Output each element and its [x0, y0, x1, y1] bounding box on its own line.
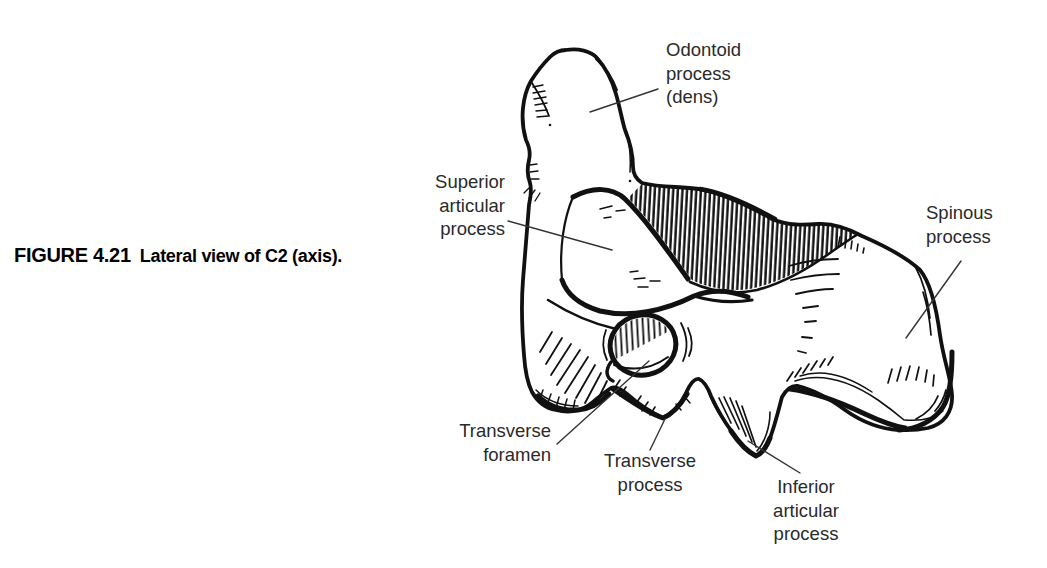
label-odontoid-process: Odontoid process (dens) — [666, 38, 741, 109]
label-transverse-process: Transverse process — [570, 449, 730, 496]
label-transverse-foramen: Transverse foramen — [391, 419, 551, 466]
label-inferior-articular-process: Inferior articular process — [726, 475, 886, 546]
figure-panel: Odontoid process (dens) Superior articul… — [0, 0, 1047, 568]
figure-title: Lateral view of C2 (axis). — [140, 246, 342, 266]
figure-number: FIGURE 4.21 — [14, 244, 131, 266]
c2-axis-line-drawing — [0, 0, 1047, 568]
figure-caption: FIGURE 4.21Lateral view of C2 (axis). — [14, 244, 342, 267]
label-spinous-process: Spinous process — [926, 201, 993, 248]
label-superior-articular-process: Superior articular process — [345, 170, 505, 241]
transverse-process-leader-line — [650, 419, 665, 450]
